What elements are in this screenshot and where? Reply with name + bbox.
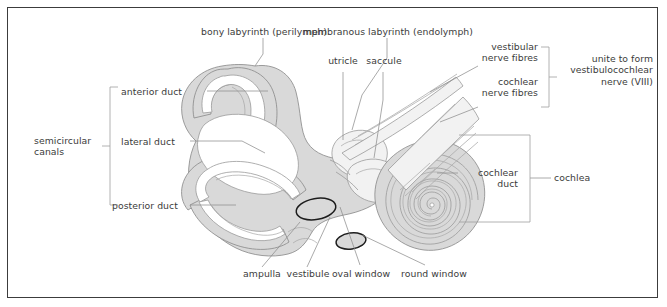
- semicircular-canals-bracket: [110, 87, 118, 205]
- label-semicircular-canals: semicircular canals: [34, 135, 106, 158]
- inner-ear-figure: .org{fill:#d9d9d9;stroke:#8d8d8d;stroke-…: [0, 0, 667, 307]
- label-oval-window: oval window: [326, 268, 396, 279]
- nerve-fibres-bracket: [541, 47, 549, 107]
- label-unite-to-form-vestibulocochlear-nerve: unite to form vestibulocochlear nerve (V…: [561, 53, 653, 87]
- round-window-shape: [335, 231, 367, 251]
- label-vestibular-nerve-fibres: vestibular nerve fibres: [462, 41, 538, 64]
- label-posterior-duct: posterior duct: [112, 200, 198, 211]
- label-round-window: round window: [394, 268, 474, 279]
- label-membranous-labyrinth: membranous labyrinth (endolymph): [293, 26, 483, 37]
- label-lateral-duct: lateral duct: [121, 136, 201, 147]
- label-saccule: saccule: [356, 55, 412, 66]
- label-cochlea: cochlea: [554, 172, 616, 183]
- label-cochlear-duct: cochlear duct: [462, 167, 518, 190]
- label-cochlear-nerve-fibres: cochlear nerve fibres: [462, 76, 538, 99]
- label-anterior-duct: anterior duct: [121, 86, 205, 97]
